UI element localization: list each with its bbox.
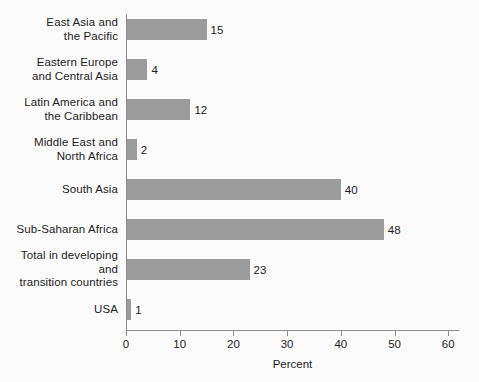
x-axis-tick-label: 60 xyxy=(442,338,455,350)
bar xyxy=(126,219,384,240)
x-axis-tick xyxy=(341,330,342,336)
x-axis-title: Percent xyxy=(126,358,459,370)
x-axis-tick xyxy=(287,330,288,336)
bar-value-label: 23 xyxy=(254,259,267,280)
x-axis-tick xyxy=(233,330,234,336)
category-label-row: Total in developing and transition count… xyxy=(0,259,118,280)
category-label: Latin America and the Caribbean xyxy=(0,96,118,123)
bar xyxy=(126,139,137,160)
category-label-row: Middle East and North Africa xyxy=(0,139,118,160)
category-label: Total in developing and transition count… xyxy=(0,249,118,290)
category-label-row: South Asia xyxy=(0,179,118,200)
category-label: USA xyxy=(0,303,118,317)
category-label-row: Sub-Saharan Africa xyxy=(0,219,118,240)
x-axis-tick xyxy=(448,330,449,336)
category-label-row: Latin America and the Caribbean xyxy=(0,99,118,120)
bar-value-label: 4 xyxy=(151,59,157,80)
bar xyxy=(126,59,147,80)
x-axis-tick xyxy=(180,330,181,336)
category-label: Middle East and North Africa xyxy=(0,136,118,163)
category-label: East Asia and the Pacific xyxy=(0,16,118,43)
x-axis-tick xyxy=(126,330,127,336)
category-label-row: USA xyxy=(0,299,118,320)
bar-value-label: 1 xyxy=(135,299,141,320)
bar xyxy=(126,19,207,40)
x-axis-tick-label: 40 xyxy=(334,338,347,350)
category-label: Eastern Europe and Central Asia xyxy=(0,56,118,83)
x-axis-tick-label: 10 xyxy=(173,338,186,350)
y-axis-line xyxy=(126,14,127,330)
bar-value-label: 12 xyxy=(194,99,207,120)
x-axis-tick-label: 20 xyxy=(227,338,240,350)
bar xyxy=(126,259,250,280)
bar xyxy=(126,179,341,200)
x-axis-line xyxy=(126,330,459,331)
x-axis-tick-label: 30 xyxy=(281,338,294,350)
bar-value-label: 40 xyxy=(345,179,358,200)
category-label-row: Eastern Europe and Central Asia xyxy=(0,59,118,80)
bar-value-label: 15 xyxy=(211,19,224,40)
x-axis-tick xyxy=(395,330,396,336)
bar-value-label: 48 xyxy=(388,219,401,240)
category-label-row: East Asia and the Pacific xyxy=(0,19,118,40)
bar-value-label: 2 xyxy=(141,139,147,160)
x-axis-tick-label: 0 xyxy=(123,338,129,350)
category-label: Sub-Saharan Africa xyxy=(0,223,118,237)
category-label: South Asia xyxy=(0,183,118,197)
x-axis-tick-label: 50 xyxy=(388,338,401,350)
bar-chart: East Asia and the Pacific Eastern Europe… xyxy=(0,0,479,382)
bar xyxy=(126,99,190,120)
